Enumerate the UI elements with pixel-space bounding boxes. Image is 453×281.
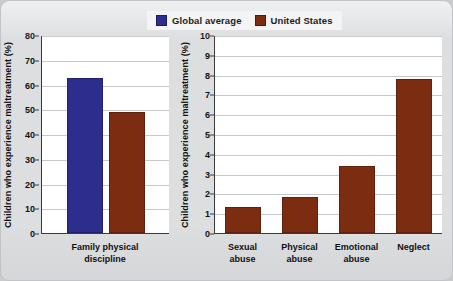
y-axis-ticks-left: 01020304050607080 (17, 36, 39, 234)
x-axis-category-label: Family physical discipline (41, 238, 169, 280)
y-tick-label: 10 (200, 31, 210, 41)
y-axis-title-left-text: Children who experience maltreatment (%) (3, 42, 13, 228)
chart-panel-right: Children who experience maltreatment (%)… (178, 31, 453, 281)
bar-series-united-states (215, 36, 442, 233)
x-axis-category-label: Neglect (385, 238, 442, 280)
plot-area-left (41, 36, 169, 234)
legend-item-united-states: United States (255, 15, 333, 26)
y-tick-mark (35, 36, 39, 37)
y-tick-label: 80 (25, 31, 35, 41)
y-tick-label: 70 (25, 56, 35, 66)
bar-slot (385, 36, 442, 233)
x-axis-category-label: Physical abuse (271, 238, 328, 280)
legend-item-global-average: Global average (156, 15, 242, 26)
y-tick-label: 60 (25, 81, 35, 91)
chart-panels: Children who experience maltreatment (%)… (1, 31, 453, 281)
y-tick-mark (35, 110, 39, 111)
y-tick-label: 50 (25, 105, 35, 115)
bar-slot (272, 36, 329, 233)
bar-global-average-family-physical-discipline (67, 78, 103, 233)
y-tick-label: 30 (25, 155, 35, 165)
bar-slot (215, 36, 272, 233)
x-axis-labels-right: Sexual abusePhysical abuseEmotional abus… (214, 238, 442, 280)
bar-united-states-physical-abuse (282, 197, 318, 233)
legend-label-united-states: United States (271, 15, 333, 26)
y-tick-mark (35, 159, 39, 160)
chart-panel-left: Children who experience maltreatment (%)… (1, 31, 178, 281)
y-tick-mark (35, 184, 39, 185)
y-tick-label: 40 (25, 130, 35, 140)
y-tick-label: 20 (25, 180, 35, 190)
bar-slot (329, 36, 386, 233)
y-axis-ticks-right: 012345678910 (192, 36, 214, 234)
x-axis-category-label: Emotional abuse (328, 238, 385, 280)
y-tick-mark (35, 135, 39, 136)
bar-united-states-family-physical-discipline (109, 112, 145, 233)
chart-legend: Global average United States (147, 11, 342, 30)
y-axis-title-left: Children who experience maltreatment (%) (1, 36, 15, 234)
legend-label-global-average: Global average (172, 15, 242, 26)
legend-swatch-brown-icon (255, 15, 266, 26)
y-axis-title-right-text: Children who experience maltreatment (%) (180, 42, 190, 228)
y-tick-mark (35, 85, 39, 86)
y-tick-label: 10 (25, 204, 35, 214)
legend-swatch-blue-icon (156, 15, 167, 26)
bar-group-family-physical-discipline (42, 36, 169, 233)
bar-united-states-neglect (396, 79, 432, 233)
x-axis-labels-left: Family physical discipline (41, 238, 169, 280)
y-tick-mark (35, 209, 39, 210)
bar-united-states-sexual-abuse (225, 207, 261, 233)
plot-area-right (214, 36, 442, 234)
y-axis-title-right: Children who experience maltreatment (%) (178, 36, 192, 234)
x-axis-category-label: Sexual abuse (214, 238, 271, 280)
figure-panel: Global average United States Children wh… (0, 0, 453, 281)
y-tick-mark (35, 60, 39, 61)
bar-united-states-emotional-abuse (339, 166, 375, 233)
y-tick-mark (35, 234, 39, 235)
